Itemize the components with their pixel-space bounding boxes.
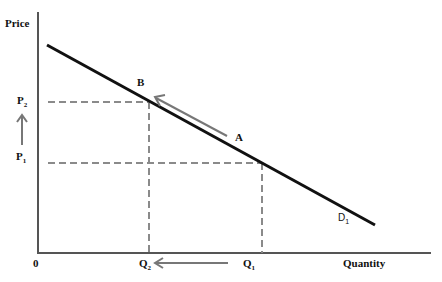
- quantity-left-arrow-icon: [155, 258, 228, 268]
- origin-label: 0: [33, 257, 39, 269]
- demand-curve: [47, 45, 375, 225]
- curve-d1-label: D1: [338, 212, 349, 225]
- demand-diagram: [0, 0, 442, 282]
- q1-label: Q1: [243, 257, 255, 272]
- price-up-arrow-icon: [17, 115, 27, 145]
- guide-lines: [48, 102, 262, 253]
- q2-label: Q2: [139, 257, 151, 272]
- x-axis-label: Quantity: [343, 257, 385, 269]
- p2-label: P2: [17, 94, 27, 109]
- movement-arrow-icon: [155, 95, 227, 136]
- point-b-label: B: [137, 76, 144, 88]
- y-axis-label: Price: [5, 17, 29, 29]
- point-a-label: A: [235, 131, 243, 143]
- p1-label: P1: [16, 150, 26, 165]
